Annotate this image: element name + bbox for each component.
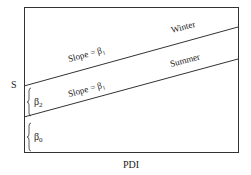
summer-line xyxy=(24,59,238,117)
beta2-label: β2 xyxy=(34,96,43,109)
beta0-label: β0 xyxy=(34,131,43,144)
winter-slope-label: Slope = β1 xyxy=(67,45,106,65)
beta0-brace xyxy=(27,123,31,151)
y-axis-label: S xyxy=(11,79,17,90)
summer-label: Summer xyxy=(169,51,201,69)
x-axis-label: PDI xyxy=(123,159,139,170)
beta2-brace xyxy=(27,88,31,116)
winter-label: Winter xyxy=(170,19,196,35)
plot-frame xyxy=(25,8,239,153)
svg-text:Slope = β1: Slope = β1 xyxy=(67,45,106,65)
winter-line xyxy=(24,27,238,86)
diagram: Winter Summer Slope = β1 Slope = β1 β2 β… xyxy=(0,0,251,175)
